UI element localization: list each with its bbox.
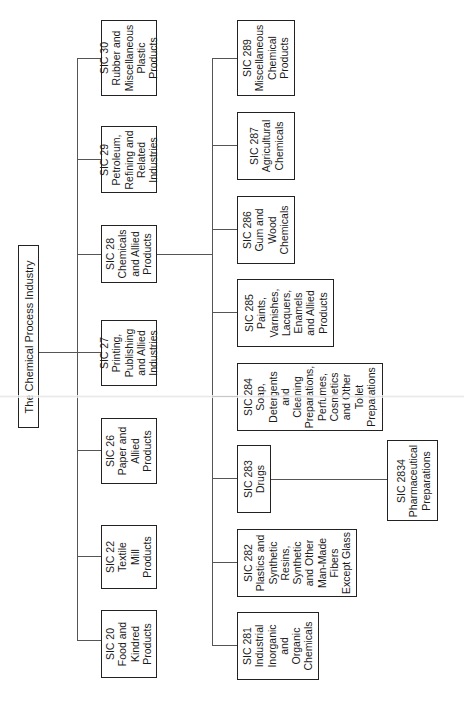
node-label: SIC 282 Plastics and Synthetic Resins, S…	[242, 532, 353, 594]
node-sic-286: SIC 286 Gum and Wood Chemicals	[237, 196, 295, 264]
node-label: SIC 29 Petroleum, Refining and Related I…	[98, 130, 159, 189]
branch-sic283	[212, 478, 237, 479]
node-sic-30: SIC 30 Rubber and Miscellaneous Plastic …	[101, 20, 157, 96]
node-label: SIC 20 Food and Kindred Products	[104, 622, 153, 666]
node-label: SIC 28 Chemicals and Allied Products	[104, 229, 153, 278]
node-sic-26: SIC 26 Paper and Allied Products	[101, 418, 157, 484]
sic28-connector	[156, 254, 212, 255]
main-trunk	[77, 58, 78, 641]
node-sic-20: SIC 20 Food and Kindred Products	[101, 610, 157, 678]
node-label: SIC 286 Gum and Wood Chemicals	[241, 205, 290, 254]
node-sic-22: SIC 22 Textile Mill Products	[101, 525, 157, 589]
branch-sic282	[212, 562, 237, 563]
node-sic-282: SIC 282 Plastics and Synthetic Resins, S…	[237, 529, 357, 597]
branch-sic287	[212, 145, 237, 146]
branch-sic26	[77, 450, 101, 451]
node-sic-2834: SIC 2834 Pharmaceutical Preparations	[387, 440, 438, 521]
node-sic-285: SIC 285 Paints, Varnishes, Lacquers, Ena…	[237, 279, 334, 347]
branch-sic28	[77, 254, 101, 255]
node-sic-29: SIC 29 Petroleum, Refining and Related I…	[101, 126, 157, 193]
node-label: SIC 30 Rubber and Miscellaneous Plastic …	[98, 25, 159, 92]
branch-sic286	[212, 229, 237, 230]
node-label: SIC 289 Miscellaneous Chemical Products	[241, 25, 290, 92]
node-label: SIC 283 Drugs	[242, 460, 267, 498]
node-label: SIC 26 Paper and Allied Products	[104, 427, 153, 475]
node-label: SIC 285 Paints, Varnishes, Lacquers, Ena…	[242, 289, 328, 338]
root-node-title: The Chemical Process Industry	[18, 245, 39, 428]
root-node-label: The Chemical Process Industry	[22, 260, 34, 413]
node-sic-289: SIC 289 Miscellaneous Chemical Products	[237, 20, 295, 96]
branch-sic281	[212, 645, 237, 646]
node-sic-281: SIC 281 Industrial Inorganic and Organic…	[237, 612, 319, 680]
node-sic-283: SIC 283 Drugs	[237, 445, 271, 513]
title-connector	[38, 352, 77, 353]
node-label: SIC 281 Industrial Inorganic and Organic…	[241, 621, 315, 670]
node-sic-287: SIC 287 Agricultural Chemicals	[237, 112, 295, 180]
branch-sic22	[77, 556, 101, 557]
node-sic-28: SIC 28 Chemicals and Allied Products	[101, 225, 157, 283]
sic283-connector	[271, 479, 387, 480]
node-label: SIC 2834 Pharmaceutical Preparations	[394, 444, 431, 516]
node-sic-27: SIC 27 Printing, Publishing and Allied I…	[101, 320, 157, 386]
branch-sic285	[212, 312, 237, 313]
branch-sic289	[212, 58, 237, 59]
node-label: SIC 287 Agricultural Chemicals	[248, 120, 285, 173]
scan-artifact	[0, 395, 464, 398]
node-label: SIC 22 Textile Mill Products	[104, 536, 153, 577]
sub-trunk	[212, 58, 213, 646]
node-label: SIC 27 Printing, Publishing and Allied I…	[98, 329, 159, 377]
branch-sic20	[77, 640, 101, 641]
